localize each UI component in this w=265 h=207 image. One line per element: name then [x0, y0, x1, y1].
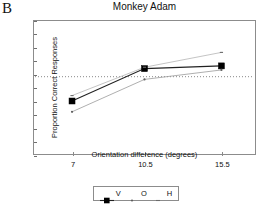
x-axis-label: Orientation difference (degrees)	[33, 150, 256, 159]
x-tick-label: 15.5	[202, 160, 242, 169]
legend-key-small-dash-icon	[151, 190, 165, 197]
y-tick-mark	[34, 61, 37, 62]
y-tick-mark	[34, 34, 37, 35]
legend-key-small-dot-icon	[125, 190, 139, 197]
legend: VOH	[93, 186, 179, 201]
chart-title: Monkey Adam	[33, 1, 256, 12]
y-tick-mark	[34, 88, 37, 89]
panel-label: B	[2, 0, 12, 17]
y-tick-mark	[34, 102, 37, 103]
y-axis-label: Proportion Correct Responses	[50, 21, 59, 155]
legend-entry-o[interactable]: O	[125, 190, 147, 198]
figure-panel: B Monkey Adam Proportion Correct Respons…	[0, 0, 265, 207]
y-tick-mark	[34, 48, 37, 49]
y-tick-mark	[34, 21, 37, 22]
y-tick-mark	[34, 75, 37, 76]
y-tick-mark	[34, 129, 37, 130]
legend-entry-v[interactable]: V	[100, 190, 121, 198]
y-tick-mark	[34, 142, 37, 143]
legend-marker	[104, 198, 110, 204]
legend-marker	[131, 199, 133, 201]
x-tick-label: 10.5	[126, 160, 166, 169]
legend-entry-h[interactable]: H	[151, 190, 172, 198]
legend-label: H	[167, 190, 172, 198]
legend-key-filled-square-icon	[100, 190, 114, 197]
legend-label: O	[141, 190, 147, 198]
x-tick-label: 7	[53, 160, 93, 169]
plot-area: Proportion Correct Responses 50556065707…	[33, 20, 256, 155]
y-tick-mark	[34, 115, 37, 116]
legend-label: V	[116, 190, 121, 198]
